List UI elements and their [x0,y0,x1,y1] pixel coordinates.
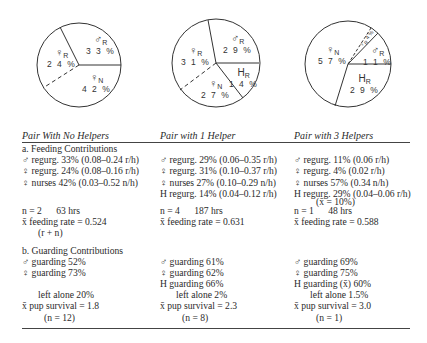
feeding-row: ♀ nurses 27% (0.10–0.29 n/h) [160,177,277,188]
feeding-row: ♀ nurses 57% (0.34 n/h) [294,177,411,188]
pup-survival: x̄ pup survival = 3.0 [294,300,411,311]
feeding-row: ♂ regurg. 29% (0.06–0.35 r/h) [160,154,277,165]
guarding-row: ♀ guarding 73% [22,267,139,278]
pie2-label-male-r: ♂R 2 9 % [223,34,252,55]
feeding-title: a. Feeding Contributions [22,143,139,154]
footer-rule [22,328,410,329]
feeding-rate: x̄ feeding rate = 0.524 [22,216,139,227]
feeding-row: ♀ regurg. 4% (0.02 r/h) [294,165,411,176]
feeding-row: H regurg. 14% (0.04–0.12 r/h) [160,188,277,199]
pie1-label-male-r: ♂R 3 3 % [86,35,115,56]
guarding-row: ♀ guarding 75% [294,267,411,278]
feeding-row: ♀ regurg. 31% (0.10–0.37 r/h) [160,165,277,176]
survival-sample-size: (n = 8) [160,312,277,323]
guarding-row: H guarding 66% [160,278,277,289]
left-alone: left alone 2% [160,289,277,300]
pie1-label-female-n: ♀N 4 2 % [82,73,111,94]
pie2-label-female-r: ♀R 3 1 % [181,46,210,67]
pie2-label-female-n: ♀N 2 7 % [201,79,230,100]
feeding-rate: x̄ feeding rate = 0.631 [160,216,277,227]
guarding-title: b. Guarding Contributions [22,245,139,256]
sample-size: n = 4 187 hrs [160,205,277,216]
feeding-rate: x̄ feeding rate = 0.588 [294,216,411,227]
column-heading: Pair With No Helpers [22,130,139,143]
pie1-label-female-r: ♀R 2 4 % [47,48,76,69]
pie3-label-male-r: ♂R 1 1 % [363,46,392,67]
column-heading: Pair with 3 Helpers [294,130,411,143]
guarding-row: ♀ guarding 62% [160,267,277,278]
feeding-row: ♀ regurg. 24% (0.08–0.16 r/h) [22,165,139,176]
survival-sample-size: (n = 12) [22,312,139,323]
guarding-row: ♂ guarding 52% [22,256,139,267]
guarding-row: ♂ guarding 69% [294,256,411,267]
left-alone: left alone 1.5% [294,289,411,300]
pie2-label-helper-r: HR 1 4 % [229,68,258,89]
pie-charts: ♂R 3 3 % ♀R 2 4 % ♀N 4 2 % ♂R 2 9 % HR 1… [0,0,427,125]
column-one-helper: Pair with 1 Helper ♂ regurg. 29% (0.06–0… [160,130,277,323]
feeding-row: ♂ regurg. 33% (0.08–0.24 r/h) [22,154,139,165]
left-alone: left alone 20% [22,289,139,300]
feeding-row: ♂ regurg. 11% (0.06 r/h) [294,154,411,165]
column-heading: Pair with 1 Helper [160,130,277,143]
feeding-row: ♀ nurses 42% (0.03–0.52 n/h) [22,177,139,188]
pup-survival: x̄ pup survival = 2.3 [160,300,277,311]
pie3-label-female-n: ♀N 5 7 % [318,45,347,66]
guarding-row: H guarding (x̄) 60% [294,278,411,289]
column-no-helpers: Pair With No Helpers a. Feeding Contribu… [22,130,139,323]
feeding-rate-note: (r + n) [22,227,139,238]
guarding-row: ♂ guarding 61% [160,256,277,267]
pie3-label-helper-r: HR 2 9 % [350,74,379,95]
sample-size: n = 2 63 hrs [22,205,139,216]
survival-sample-size: (n = 1) [294,312,411,323]
column-three-helpers: Pair with 3 Helpers ♂ regurg. 11% (0.06 … [294,130,411,323]
pup-survival: x̄ pup survival = 1.8 [22,300,139,311]
